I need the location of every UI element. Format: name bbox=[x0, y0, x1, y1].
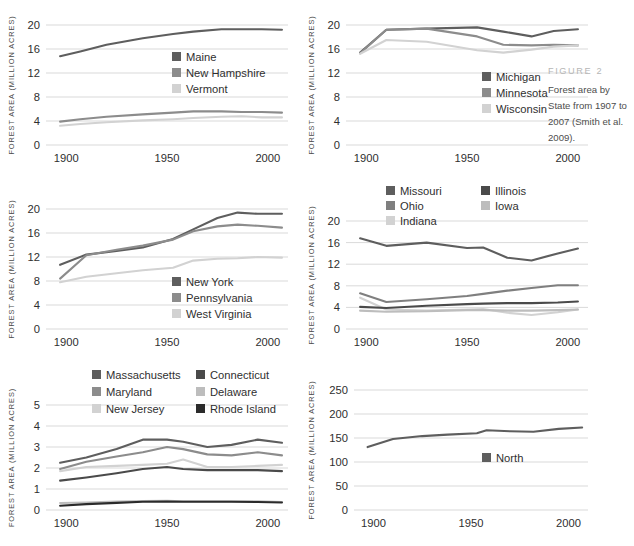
chart-panel-central-states: 048121620190019502000FOREST AREA (MILLIO… bbox=[300, 181, 634, 365]
legend-label-rhode-island: Rhode Island bbox=[210, 403, 276, 415]
series-line-connecticut bbox=[60, 467, 282, 481]
x-axis-tick-label: 1950 bbox=[155, 152, 180, 164]
y-axis-title: FOREST AREA (MILLION ACRES) bbox=[307, 205, 316, 344]
series-line-massachusetts bbox=[60, 440, 282, 463]
y-axis-tick-label: 2 bbox=[34, 462, 40, 474]
x-axis-tick-label: 1950 bbox=[155, 336, 180, 348]
legend-swatch-iowa bbox=[481, 201, 490, 210]
y-axis-tick-label: 0 bbox=[34, 323, 40, 335]
legend-label-illinois: Illinois bbox=[495, 185, 526, 197]
legend-label-wisconsin: Wisconsin bbox=[496, 103, 547, 115]
chart-svg-central-states: 048121620190019502000FOREST AREA (MILLIO… bbox=[300, 181, 634, 365]
legend-swatch-indiana bbox=[386, 216, 395, 225]
legend-label-new-york: New York bbox=[186, 276, 234, 288]
legend-label-vermont: Vermont bbox=[186, 83, 229, 95]
legend-swatch-illinois bbox=[481, 186, 490, 195]
series-line-north bbox=[368, 427, 583, 447]
figure-caption: FIGURE 2 Forest area by State from 1907 … bbox=[548, 66, 634, 146]
series-line-maine bbox=[60, 29, 282, 56]
legend-label-massachusetts: Massachusetts bbox=[106, 369, 181, 381]
legend-label-pennsylvania: Pennsylvania bbox=[186, 292, 253, 304]
x-axis-tick-label: 1900 bbox=[361, 517, 386, 529]
chart-svg-northern-new-england: 048121620190019502000FOREST AREA (MILLIO… bbox=[0, 0, 300, 181]
legend-label-iowa: Iowa bbox=[495, 200, 519, 212]
y-axis-tick-label: 20 bbox=[328, 19, 340, 31]
legend-swatch-new-york bbox=[172, 277, 181, 286]
legend-label-west-virginia: West Virginia bbox=[186, 308, 252, 320]
series-line-ohio bbox=[360, 285, 578, 302]
legend-label-north: North bbox=[496, 452, 523, 464]
y-axis-tick-label: 4 bbox=[334, 115, 340, 127]
y-axis-tick-label: 20 bbox=[328, 215, 340, 227]
y-axis-tick-label: 12 bbox=[28, 67, 40, 79]
y-axis-tick-label: 4 bbox=[34, 299, 40, 311]
y-axis-tick-label: 4 bbox=[34, 420, 40, 432]
x-axis-tick-label: 2000 bbox=[555, 336, 580, 348]
legend-label-missouri: Missouri bbox=[400, 185, 442, 197]
y-axis-tick-label: 12 bbox=[328, 67, 340, 79]
y-axis-tick-label: 50 bbox=[336, 480, 348, 492]
y-axis-tick-label: 200 bbox=[329, 408, 348, 420]
y-axis-tick-label: 1 bbox=[34, 483, 40, 495]
y-axis-tick-label: 100 bbox=[329, 456, 348, 468]
y-axis-tick-label: 16 bbox=[328, 43, 340, 55]
legend-label-minnesota: Minnesota bbox=[496, 87, 548, 99]
y-axis-tick-label: 16 bbox=[28, 227, 40, 239]
legend-label-indiana: Indiana bbox=[400, 215, 437, 227]
x-axis-tick-label: 1900 bbox=[54, 152, 79, 164]
x-axis-tick-label: 2000 bbox=[555, 152, 580, 164]
y-axis-title: FOREST AREA (MILLION ACRES) bbox=[7, 388, 16, 527]
x-axis-tick-label: 1900 bbox=[354, 336, 379, 348]
legend-swatch-north bbox=[482, 453, 491, 462]
y-axis-tick-label: 8 bbox=[334, 91, 340, 103]
y-axis-tick-label: 4 bbox=[334, 301, 340, 313]
legend-swatch-maryland bbox=[92, 387, 101, 396]
y-axis-tick-label: 12 bbox=[28, 251, 40, 263]
legend-swatch-missouri bbox=[386, 186, 395, 195]
legend-label-maine: Maine bbox=[186, 51, 216, 63]
chart-panel-mid-atlantic: 048121620190019502000FOREST AREA (MILLIO… bbox=[0, 181, 300, 365]
figure-caption-text: Forest area by State from 1907 to 2007 (… bbox=[548, 82, 634, 146]
chart-svg-north-region: 050100150200250190019502000FOREST AREA (… bbox=[300, 365, 634, 546]
x-axis-tick-label: 1950 bbox=[455, 336, 480, 348]
y-axis-title: FOREST AREA (MILLION ACRES) bbox=[7, 199, 16, 338]
legend-label-connecticut: Connecticut bbox=[210, 369, 270, 381]
legend-swatch-maine bbox=[172, 52, 181, 61]
series-line-west-virginia bbox=[60, 257, 282, 282]
x-axis-tick-label: 1900 bbox=[354, 152, 379, 164]
legend-label-maryland: Maryland bbox=[106, 386, 152, 398]
legend-swatch-west-virginia bbox=[172, 309, 181, 318]
x-axis-tick-label: 2000 bbox=[255, 336, 280, 348]
x-axis-tick-label: 2000 bbox=[255, 517, 280, 529]
legend-swatch-new-jersey bbox=[92, 404, 101, 413]
x-axis-tick-label: 2000 bbox=[255, 152, 280, 164]
y-axis-tick-label: 8 bbox=[34, 91, 40, 103]
y-axis-title: FOREST AREA (MILLION ACRES) bbox=[7, 15, 16, 154]
chart-svg-southern-new-england-mid-atlantic-small: 012345190019502000FOREST AREA (MILLION A… bbox=[0, 365, 300, 546]
y-axis-title: FOREST AREA (MILLION ACRES) bbox=[307, 380, 316, 519]
y-axis-tick-label: 16 bbox=[28, 43, 40, 55]
y-axis-title: FOREST AREA (MILLION ACRES) bbox=[307, 15, 316, 154]
legend-label-ohio: Ohio bbox=[400, 200, 424, 212]
y-axis-tick-label: 20 bbox=[28, 203, 40, 215]
legend-swatch-wisconsin bbox=[482, 104, 491, 113]
y-axis-tick-label: 150 bbox=[329, 432, 348, 444]
y-axis-tick-label: 8 bbox=[334, 280, 340, 292]
x-axis-tick-label: 1900 bbox=[54, 336, 79, 348]
x-axis-tick-label: 1950 bbox=[155, 517, 180, 529]
legend-swatch-michigan bbox=[482, 72, 491, 81]
series-line-missouri bbox=[360, 238, 578, 260]
y-axis-tick-label: 16 bbox=[328, 237, 340, 249]
figure-container: 048121620190019502000FOREST AREA (MILLIO… bbox=[0, 0, 634, 546]
series-line-wisconsin bbox=[360, 40, 578, 54]
legend-label-delaware: Delaware bbox=[210, 386, 257, 398]
legend-label-new-hampshire: New Hampshire bbox=[186, 67, 266, 79]
y-axis-tick-label: 0 bbox=[334, 323, 340, 335]
y-axis-tick-label: 0 bbox=[334, 139, 340, 151]
y-axis-tick-label: 0 bbox=[342, 504, 348, 516]
legend-swatch-ohio bbox=[386, 201, 395, 210]
legend-swatch-minnesota bbox=[482, 88, 491, 97]
y-axis-tick-label: 8 bbox=[34, 275, 40, 287]
legend-swatch-pennsylvania bbox=[172, 293, 181, 302]
y-axis-tick-label: 3 bbox=[34, 441, 40, 453]
